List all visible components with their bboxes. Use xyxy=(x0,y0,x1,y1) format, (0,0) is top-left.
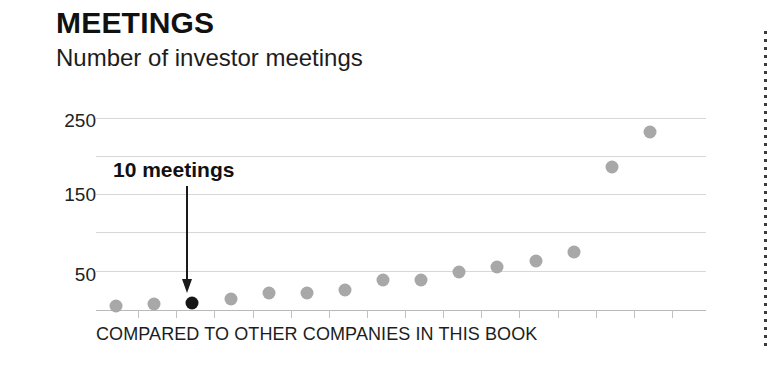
gridline-200 xyxy=(96,156,706,157)
data-point xyxy=(605,160,618,173)
data-point-highlighted xyxy=(186,296,199,309)
data-point xyxy=(300,287,313,300)
x-axis-tick xyxy=(253,310,254,318)
x-axis-tick xyxy=(176,310,177,318)
data-point xyxy=(224,293,237,306)
chart-subtitle: Number of investor meetings xyxy=(56,44,363,72)
data-point xyxy=(377,273,390,286)
annotation-arrow-icon xyxy=(180,186,194,294)
y-axis-tick-250: 250 xyxy=(36,111,96,130)
meetings-chart-figure: MEETINGS Number of investor meetings 250… xyxy=(0,0,775,371)
data-point xyxy=(453,266,466,279)
x-axis-tick xyxy=(672,310,673,318)
x-axis-tick xyxy=(634,310,635,318)
data-point xyxy=(643,126,656,139)
gridline-250 xyxy=(96,118,706,119)
chart-title: MEETINGS xyxy=(56,6,214,40)
x-axis-tick xyxy=(291,310,292,318)
y-axis-tick-150: 150 xyxy=(36,185,96,204)
x-axis-tick xyxy=(558,310,559,318)
x-axis-tick xyxy=(214,310,215,318)
x-axis-tick xyxy=(138,310,139,318)
y-axis-tick-50: 50 xyxy=(36,265,96,284)
data-point xyxy=(415,273,428,286)
data-point xyxy=(491,260,504,273)
data-point xyxy=(262,287,275,300)
data-point xyxy=(148,298,161,311)
x-axis-tick xyxy=(329,310,330,318)
x-axis-tick xyxy=(405,310,406,318)
x-axis-tick xyxy=(443,310,444,318)
x-axis-caption: COMPARED TO OTHER COMPANIES IN THIS BOOK xyxy=(96,324,537,345)
x-axis-tick xyxy=(519,310,520,318)
data-point xyxy=(567,246,580,259)
data-point xyxy=(110,300,123,313)
x-axis-baseline xyxy=(96,310,706,311)
page-edge-dotted-rule xyxy=(764,31,767,351)
data-point xyxy=(338,284,351,297)
x-axis-tick xyxy=(596,310,597,318)
annotation-label-10-meetings: 10 meetings xyxy=(113,158,234,182)
x-axis-tick xyxy=(481,310,482,318)
data-point xyxy=(529,255,542,268)
x-axis-tick xyxy=(367,310,368,318)
